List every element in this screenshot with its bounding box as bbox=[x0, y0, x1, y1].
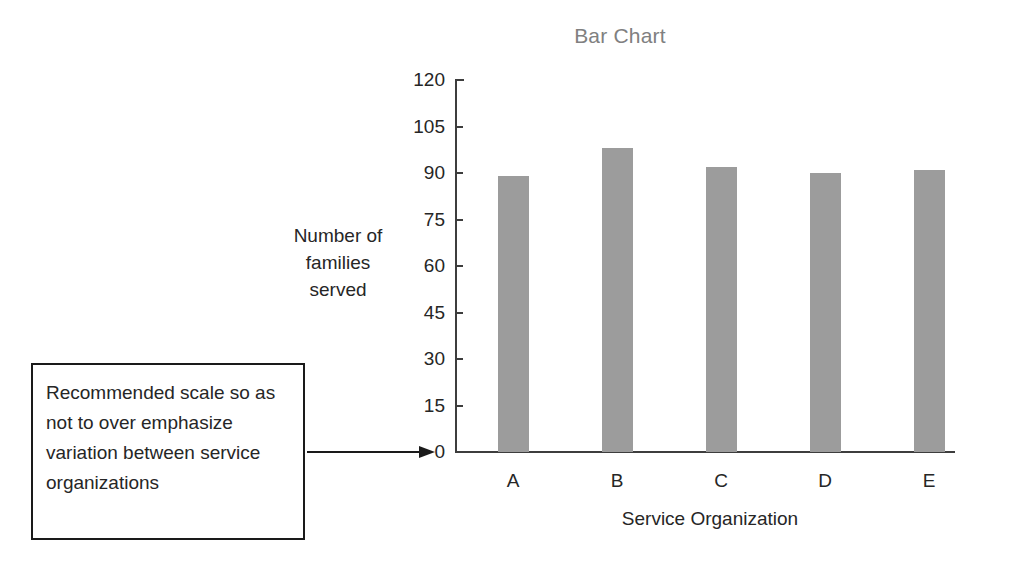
y-axis-tick-label: 45 bbox=[393, 303, 445, 322]
x-axis-tick-label-D: D bbox=[795, 470, 855, 492]
x-axis-tick-label-A: A bbox=[483, 470, 543, 492]
plot-area bbox=[455, 80, 955, 452]
y-axis-tick-label: 120 bbox=[393, 70, 445, 89]
annotation-callout-box: Recommended scale so as not to over emph… bbox=[31, 363, 305, 540]
y-axis-title-line-1: Number of bbox=[268, 222, 408, 249]
x-axis-title: Service Organization bbox=[540, 508, 880, 530]
y-axis-title-line-3: served bbox=[268, 276, 408, 303]
y-axis-tick-label: 90 bbox=[393, 163, 445, 182]
bar-B bbox=[602, 148, 633, 452]
bar-A bbox=[498, 176, 529, 452]
x-axis-tick-label-B: B bbox=[587, 470, 647, 492]
annotation-arrow-icon bbox=[307, 444, 437, 460]
bar-D bbox=[810, 173, 841, 452]
y-axis-tick-label: 105 bbox=[393, 117, 445, 136]
x-axis-tick-label-C: C bbox=[691, 470, 751, 492]
x-axis-tick-label-E: E bbox=[899, 470, 959, 492]
chart-title: Bar Chart bbox=[470, 24, 770, 48]
bar-C bbox=[706, 167, 737, 452]
y-axis-title-line-2: families bbox=[268, 249, 408, 276]
y-axis-title: Number of families served bbox=[268, 222, 408, 303]
bar-E bbox=[914, 170, 945, 452]
y-axis-tick-label: 30 bbox=[393, 349, 445, 368]
annotation-callout-text: Recommended scale so as not to over emph… bbox=[46, 378, 294, 498]
y-axis-tick-label: 15 bbox=[393, 396, 445, 415]
